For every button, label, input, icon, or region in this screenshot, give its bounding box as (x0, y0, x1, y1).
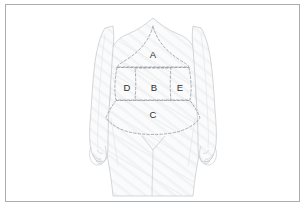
region-label-d: D (124, 82, 131, 93)
region-label-a: A (150, 49, 157, 60)
region-label-e: E (177, 82, 183, 93)
region-label-b: B (151, 82, 157, 93)
diagram-canvas: A B C D E (0, 0, 306, 207)
torso-silhouette (105, 18, 201, 196)
body-diagram-svg: A B C D E (0, 0, 306, 207)
region-label-c: C (150, 109, 157, 120)
